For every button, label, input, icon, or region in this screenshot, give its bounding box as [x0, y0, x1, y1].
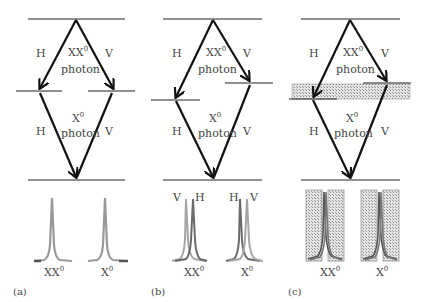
photon-word: photon — [198, 63, 237, 76]
photon-label: XX0 — [68, 45, 88, 59]
peak-pol-label: V — [249, 191, 259, 204]
photon-word: photon — [61, 63, 100, 76]
pol-label: H — [172, 47, 182, 60]
broadening-band — [292, 84, 410, 99]
transition-arrows — [176, 20, 250, 177]
panel-label: (a) — [13, 286, 27, 297]
pol-label: H — [309, 125, 319, 138]
photon-word: photon — [334, 127, 373, 140]
photon-label: XX0 — [343, 45, 363, 59]
peak-pol-label: V — [172, 191, 182, 204]
pol-label: H — [36, 125, 46, 138]
x-peak — [88, 198, 127, 261]
filter-window — [361, 190, 377, 261]
pol-label: H — [36, 47, 46, 60]
pol-label: V — [242, 47, 252, 60]
pol-label: V — [380, 47, 390, 60]
panel-label: (b) — [151, 286, 165, 297]
pol-label: H — [172, 125, 182, 138]
photon-label: X0 — [209, 111, 221, 125]
photon-label: XX0 — [206, 45, 226, 59]
spectrum-label: XX0 — [184, 265, 204, 279]
peak-pol-label: H — [195, 191, 205, 204]
energy-levels — [16, 19, 135, 180]
spectrum — [306, 190, 399, 261]
cascade-figure: H V XX0 photon H V X0 photon XX0 X0 (a) — [0, 0, 425, 302]
panel-a: H V XX0 photon H V X0 photon XX0 X0 (a) — [13, 19, 135, 297]
panel-c: H V XX0 photon H V X0 photon XX0 X0 (c) — [288, 19, 411, 297]
xx-h-peak — [175, 199, 207, 261]
spectrum-label: XX0 — [320, 265, 340, 279]
spectrum-label: X0 — [376, 265, 388, 279]
peak-pol-label: H — [229, 191, 239, 204]
spectrum-label: X0 — [101, 265, 113, 279]
spectrum — [172, 199, 263, 261]
photon-word: photon — [198, 127, 237, 140]
energy-levels — [151, 19, 273, 180]
pol-label: V — [242, 125, 252, 138]
energy-levels — [289, 19, 411, 180]
xx-peak — [34, 198, 72, 261]
photon-label: X0 — [346, 111, 358, 125]
spectrum — [34, 198, 128, 261]
pol-label: V — [380, 125, 390, 138]
panel-label: (c) — [288, 286, 302, 297]
x-v-peak — [229, 199, 263, 261]
panel-b: H V XX0 photon H V X0 photon V H H V XX0… — [151, 19, 273, 297]
photon-word: photon — [336, 63, 375, 76]
pol-label: V — [104, 47, 114, 60]
pol-label: H — [309, 47, 319, 60]
transition-arrows — [40, 20, 113, 177]
photon-label: X0 — [72, 111, 84, 125]
photon-word: photon — [61, 127, 100, 140]
spectrum-label: X0 — [241, 265, 253, 279]
filter-window — [306, 190, 322, 261]
spectrum-label: XX0 — [44, 265, 64, 279]
pol-label: V — [104, 125, 114, 138]
